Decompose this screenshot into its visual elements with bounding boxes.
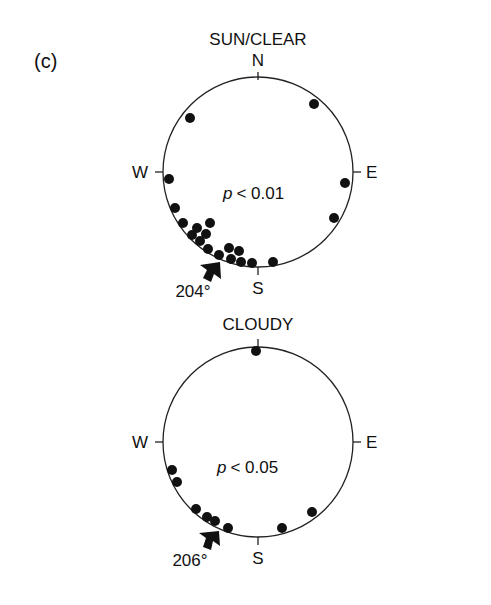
p-symbol: p bbox=[222, 184, 232, 203]
plot-title: CLOUDY bbox=[223, 315, 294, 334]
p-threshold: < 0.05 bbox=[230, 458, 278, 477]
mean-direction-arrow-icon bbox=[200, 262, 221, 282]
p-value-text: p< 0.05 bbox=[216, 458, 278, 477]
label-north: N bbox=[252, 51, 264, 70]
label-south: S bbox=[252, 549, 263, 568]
p-value-text: p< 0.01 bbox=[222, 184, 284, 203]
data-points bbox=[167, 346, 317, 533]
plot-cloudy: CLOUDY W E S p< 0.05 206° bbox=[132, 315, 377, 570]
plot-sun-clear: SUN/CLEAR N W E S p< 0.01 bbox=[132, 30, 377, 301]
label-west: W bbox=[132, 433, 148, 452]
p-threshold: < 0.01 bbox=[236, 184, 284, 203]
mean-direction-label: 204° bbox=[175, 282, 210, 301]
plot-title: SUN/CLEAR bbox=[209, 30, 306, 49]
p-symbol: p bbox=[216, 458, 226, 477]
mean-direction-arrow-icon bbox=[199, 531, 220, 550]
label-east: E bbox=[366, 433, 377, 452]
label-west: W bbox=[132, 163, 148, 182]
figure-canvas: (c) SUN/CLEAR N W E S p< 0.01 bbox=[0, 0, 491, 605]
panel-label: (c) bbox=[34, 50, 57, 72]
label-east: E bbox=[366, 163, 377, 182]
mean-direction-label: 206° bbox=[172, 551, 207, 570]
label-south: S bbox=[252, 279, 263, 298]
